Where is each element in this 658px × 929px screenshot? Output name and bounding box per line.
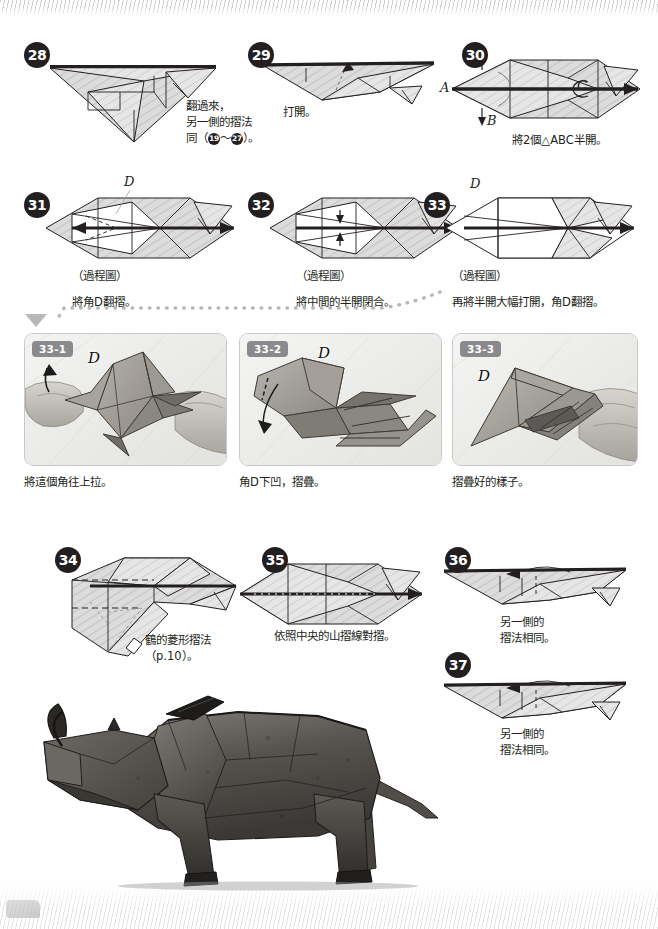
origami-instruction-page: 28	[0, 0, 658, 929]
photo-tag-33-2: 33-2	[247, 341, 288, 357]
photo-caption-33-1: 將這個角往上拉。	[24, 474, 214, 490]
step-ref-from-badge: 19	[208, 133, 220, 145]
photo-panel-33-2: 33-2	[239, 333, 442, 466]
step-diagram-33	[442, 188, 642, 268]
step-note-33: （過程圖）	[452, 268, 592, 284]
photo-label-D-33-1: D	[88, 349, 100, 367]
step-diagram-31	[42, 188, 242, 268]
step-badge-33: 33	[424, 192, 450, 218]
step-badge-32: 32	[248, 192, 274, 218]
step-caption-35: 依照中央的山摺線對摺。	[274, 628, 454, 644]
label-D-step-33: D	[470, 176, 480, 191]
step-badge-29: 29	[248, 42, 274, 68]
flow-arrow-down-icon	[25, 314, 47, 327]
photo-tag-33-3: 33-3	[460, 341, 501, 357]
step-caption-37: 另一側的 摺法相同。	[500, 726, 630, 758]
step-badge-36: 36	[445, 547, 471, 573]
photo-panel-33-1: 33-1	[24, 333, 227, 466]
label-D-step-31: D	[124, 174, 134, 189]
photo-caption-33-3: 摺疊好的樣子。	[452, 474, 642, 490]
dotted-flow-connector	[24, 288, 444, 334]
step-note-31: （過程圖）	[72, 268, 212, 284]
label-A-step-30: A	[440, 80, 449, 95]
photo-tag-33-1: 33-1	[32, 341, 73, 357]
label-C-step-30: C	[577, 78, 587, 93]
step-caption-29: 打開。	[283, 104, 393, 120]
photo-caption-33-2: 角D下凹，摺疊。	[239, 474, 429, 490]
corner-smudge-decor	[6, 900, 40, 918]
step-caption-36: 另一側的 摺法相同。	[500, 614, 630, 646]
photo-panel-33-3: 33-3	[452, 333, 638, 466]
step-badge-34: 34	[55, 547, 81, 573]
origami-rhinoceros-photo	[18, 668, 438, 893]
step-caption-28-tail: ）。	[243, 131, 259, 145]
step-badge-30: 30	[462, 42, 488, 68]
step-ref-to-badge: 27	[231, 133, 243, 145]
photo-label-D-33-2: D	[318, 344, 330, 362]
step-caption-34: 鶴的菱形摺法 （p.10）。	[145, 632, 275, 664]
step-badge-31: 31	[24, 192, 50, 218]
paper-texture-top	[0, 0, 658, 16]
step-diagram-36	[440, 562, 630, 614]
step-note-32: （過程圖）	[296, 268, 436, 284]
step-badge-28: 28	[24, 42, 50, 68]
step-badge-35: 35	[262, 547, 288, 573]
step-badge-37: 37	[445, 652, 471, 678]
step-caption-30: 將2個△ABC半開。	[512, 132, 658, 148]
step-diagram-37	[440, 676, 630, 728]
step-caption-33: 再將半開大幅打開，角D翻摺。	[452, 294, 652, 310]
label-B-step-30: B	[487, 113, 497, 128]
photo-label-D-33-3: D	[478, 367, 490, 385]
